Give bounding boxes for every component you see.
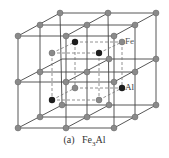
caption-formula-base: Fe (82, 134, 92, 145)
fe-label: Fe (125, 37, 134, 46)
caption-prefix: (a) (63, 134, 74, 145)
al-label: Al (125, 83, 134, 92)
fe3al-crystal-structure-figure: Fe Al (a) Fe3Al (0, 0, 169, 158)
caption-formula-rest: Al (96, 134, 106, 145)
figure-caption: (a) Fe3Al (0, 134, 169, 148)
